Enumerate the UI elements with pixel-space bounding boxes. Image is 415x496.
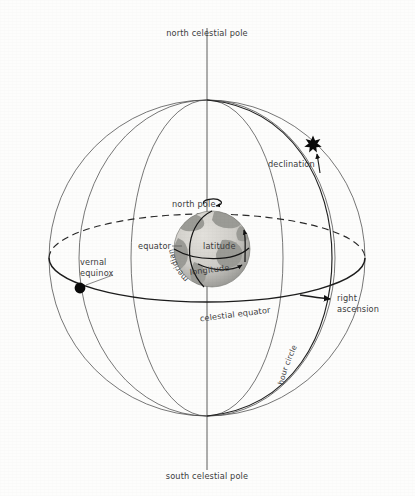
- celestial-sphere-diagram: north celestial pole south celestial pol…: [0, 0, 415, 496]
- vernal-equinox-dot: [75, 283, 86, 294]
- label-declination: declination: [268, 159, 315, 169]
- label-vernal-equinox-line2: equinox: [80, 268, 114, 278]
- label-equator: equator: [138, 241, 172, 251]
- label-north-celestial-pole: north celestial pole: [166, 28, 248, 38]
- label-right-ascension-line1: right: [337, 293, 358, 303]
- label-right-ascension-line2: ascension: [337, 304, 379, 314]
- label-latitude: latitude: [203, 241, 236, 251]
- star-marker: [304, 136, 321, 153]
- label-vernal-equinox-line1: vernal: [80, 257, 107, 267]
- diagram-canvas: north celestial pole south celestial pol…: [0, 0, 415, 496]
- label-north-pole: north pole: [172, 199, 216, 209]
- declination-arrow: [317, 154, 320, 173]
- label-celestial-equator: celestial equator: [199, 305, 271, 324]
- label-south-celestial-pole: south celestial pole: [166, 471, 248, 481]
- right-ascension-arrow: [300, 295, 330, 299]
